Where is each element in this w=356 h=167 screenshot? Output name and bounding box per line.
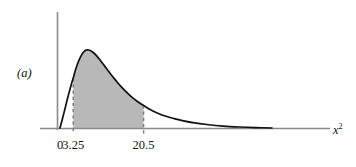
x-axis-title: x2 bbox=[333, 124, 343, 137]
chi-square-figure: (a) 0 3.25 20.5 x2 bbox=[0, 0, 356, 167]
x-tick-label-lower-bound: 3.25 bbox=[62, 139, 84, 152]
chi-square-plot bbox=[0, 0, 356, 167]
x-axis-title-exponent: 2 bbox=[339, 122, 343, 131]
panel-label: (a) bbox=[17, 67, 32, 80]
x-tick-label-upper-bound: 20.5 bbox=[133, 139, 155, 152]
